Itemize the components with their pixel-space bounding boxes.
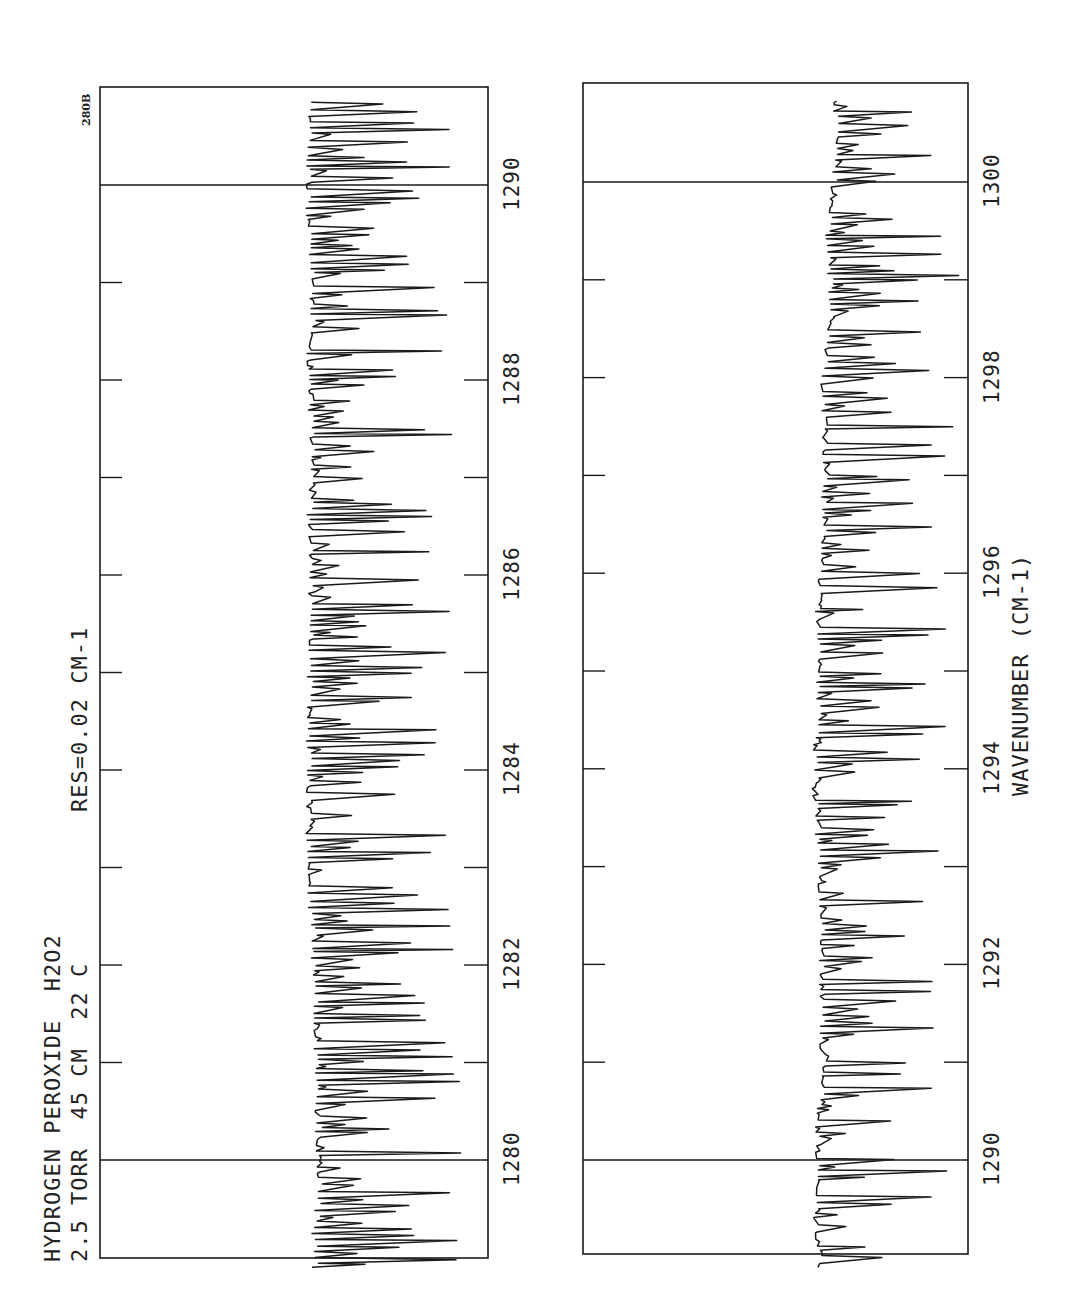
tick-label: 1300 [980,153,1004,208]
spectrum-figure [0,0,1090,1313]
tick-label: 1292 [980,936,1004,991]
spectrum-trace [306,102,461,1267]
tick-label: 1296 [980,545,1004,600]
spectrum-panel-right [583,83,968,1268]
plate-id: 280B [80,94,93,126]
x-axis-title: WAVENUMBER (CM-1) [1008,554,1033,796]
tick-label: 1288 [500,351,524,406]
tick-label: 1290 [500,156,524,211]
tick-label: 1286 [500,546,524,601]
tick-label: 1294 [980,740,1004,795]
tick-label: 1284 [500,741,524,796]
tick-label: 1280 [500,1131,524,1186]
spectrum-panel-left [100,87,488,1267]
tick-label: 1290 [980,1131,1004,1186]
spectrum-trace [812,101,958,1267]
title-line-2: 2.5 TORR 45 CM 22 C [67,963,92,1262]
tick-label: 1298 [980,349,1004,404]
plot-frame [583,83,968,1254]
tick-label: 1282 [500,936,524,991]
resolution-label: RES=0.02 CM-1 [67,627,92,812]
title-line-1: HYDROGEN PEROXIDE H2O2 [40,934,65,1262]
